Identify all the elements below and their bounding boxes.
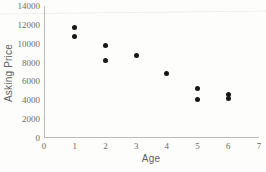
data-point [103,43,108,48]
data-point [72,34,77,39]
data-point [134,53,139,58]
y-tick-label: 14000 [0,1,40,11]
x-tick-label: 1 [65,141,85,151]
y-tick-label: 6000 [0,76,40,86]
data-point [226,96,231,101]
x-tick-label: 4 [157,141,177,151]
y-tick-label: 12000 [0,20,40,30]
x-tick-label: 7 [249,141,266,151]
y-tick-label: 2000 [0,114,40,124]
scatter-plot: Asking Price Age 02000400060008000100001… [0,0,266,172]
x-axis-title: Age [131,153,171,164]
x-tick-label: 6 [218,141,238,151]
y-tick-label: 10000 [0,39,40,49]
x-tick-label: 3 [126,141,146,151]
data-point [195,97,200,102]
x-tick-label: 0 [34,141,54,151]
x-tick-label: 2 [95,141,115,151]
x-tick-label: 5 [188,141,208,151]
y-tick-label: 4000 [0,95,40,105]
y-tick-label: 8000 [0,58,40,68]
